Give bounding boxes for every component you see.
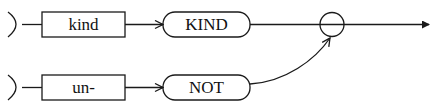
output-pill-KIND-label: KIND: [185, 15, 228, 34]
input-box-un-label: un-: [72, 78, 95, 97]
output-pill-NOT-label: NOT: [189, 78, 225, 97]
input-box-kind-label: kind: [68, 15, 99, 34]
diagram-canvas: kind KIND un- NOT: [0, 0, 433, 108]
curve-NOT-to-junction: [250, 38, 330, 84]
row-un: un- NOT: [8, 75, 250, 100]
row-kind: kind KIND: [8, 12, 250, 37]
left-bracket-arc: [8, 12, 16, 37]
left-bracket-arc: [8, 75, 16, 100]
